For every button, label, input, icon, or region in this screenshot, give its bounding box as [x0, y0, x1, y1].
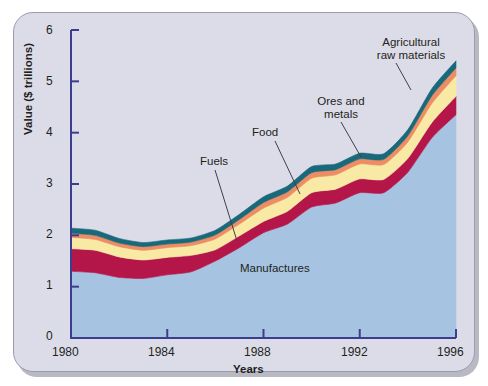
annotation-ores-line1: Ores and [305, 95, 377, 108]
annotation-fuels: Fuels [200, 155, 228, 168]
ytick-label-0: 0 [46, 329, 53, 343]
xtick-label-1988: 1988 [244, 345, 271, 359]
annotation-ores-line2: metals [305, 108, 377, 121]
ytick-label-4: 4 [46, 125, 53, 139]
ytick-label-6: 6 [46, 23, 53, 37]
ytick-label-3: 3 [46, 176, 53, 190]
chart-figure: 6 5 4 3 2 1 0 1980 1984 1988 1992 1996 V… [0, 0, 488, 386]
ytick-label-1: 1 [46, 278, 53, 292]
annotation-food: Food [252, 126, 278, 139]
annotation-agricultural-line1: Agricultural [355, 36, 467, 49]
xtick-label-1984: 1984 [148, 345, 175, 359]
annotation-agricultural-line2: raw materials [355, 49, 467, 62]
x-axis-title: Years [233, 363, 264, 375]
ytick-label-2: 2 [46, 227, 53, 241]
y-axis-title: Value ($ trillions) [22, 15, 34, 135]
xtick-label-1996: 1996 [437, 345, 464, 359]
xtick-label-1980: 1980 [52, 345, 79, 359]
xtick-label-1992: 1992 [341, 345, 368, 359]
ytick-label-5: 5 [46, 74, 53, 88]
annotation-manufactures: Manufactures [240, 262, 310, 275]
